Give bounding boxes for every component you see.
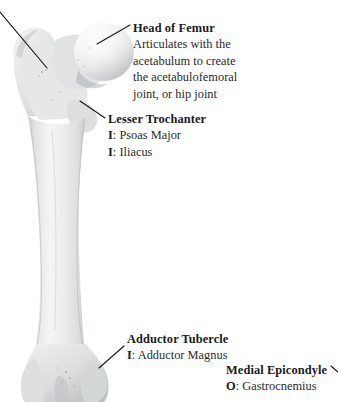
- label-lesser-trochanter: Lesser Trochanter I: Psoas Major I: Ilia…: [108, 111, 206, 160]
- attachment-muscle: Iliacus: [119, 145, 152, 159]
- label-adductor-tubercle: Adductor Tubercle I: Adductor Magnus: [127, 331, 228, 364]
- label-lesser-trochanter-title: Lesser Trochanter: [108, 111, 206, 127]
- label-head-of-femur-title: Head of Femur: [133, 20, 237, 36]
- description-line: Articulates with the: [133, 36, 237, 53]
- label-adductor-tubercle-title: Adductor Tubercle: [127, 331, 228, 347]
- description-line: the acetabulofemoral: [133, 69, 237, 86]
- distal-femur: [21, 344, 108, 402]
- label-head-of-femur-description: Articulates with the acetabulum to creat…: [133, 36, 237, 102]
- attachment-prefix: O: [226, 379, 236, 393]
- label-medial-epicondyle: Medial Epicondyle O: Gastrocnemius: [226, 362, 327, 395]
- leader-line-adductor-tubercle: [99, 346, 124, 368]
- attachment-row: I: Adductor Magnus: [127, 347, 228, 364]
- description-line: acetabulum to create: [133, 53, 237, 70]
- attachment-row: I: Psoas Major: [108, 127, 206, 144]
- attachment-muscle: Psoas Major: [119, 128, 181, 142]
- label-medial-epicondyle-title: Medial Epicondyle: [226, 362, 327, 378]
- attachment-muscle: Adductor Magnus: [138, 348, 228, 362]
- description-line: joint, or hip joint: [133, 86, 237, 103]
- leader-line-medial-epicondyle: [331, 366, 338, 372]
- attachment-row: O: Gastrocnemius: [226, 378, 327, 395]
- label-head-of-femur: Head of Femur Articulates with the aceta…: [133, 20, 237, 102]
- attachment-row: I: Iliacus: [108, 144, 206, 161]
- femur-diagram: Head of Femur Articulates with the aceta…: [0, 0, 338, 402]
- attachment-muscle: Gastrocnemius: [242, 379, 316, 393]
